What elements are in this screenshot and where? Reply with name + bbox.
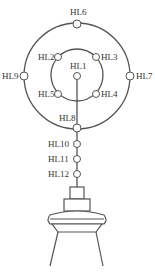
label-hl6: HL6 xyxy=(70,7,87,17)
label-hl3: HL3 xyxy=(101,52,118,62)
node-hl3 xyxy=(93,54,100,61)
node-hl7 xyxy=(126,72,134,80)
label-hl7: HL7 xyxy=(136,71,153,81)
node-hl10 xyxy=(74,141,81,148)
node-hl5 xyxy=(55,91,62,98)
node-hl6 xyxy=(73,20,81,28)
node-hl9 xyxy=(20,72,28,80)
label-hl10: HL10 xyxy=(48,139,69,149)
label-hl2: HL2 xyxy=(38,52,55,62)
node-hl8 xyxy=(73,124,81,132)
node-hl4 xyxy=(93,91,100,98)
node-hl12 xyxy=(74,171,81,178)
lamp-wiring-diagram: HL6 HL1 HL2 HL3 HL5 HL4 HL9 HL7 HL8 HL10… xyxy=(0,0,155,275)
lamp-fixture xyxy=(48,187,106,266)
label-hl8: HL8 xyxy=(59,113,76,123)
diagram-graphics xyxy=(0,0,155,275)
label-hl5: HL5 xyxy=(38,89,55,99)
label-hl11: HL11 xyxy=(48,154,69,164)
node-hl2 xyxy=(55,54,62,61)
label-hl12: HL12 xyxy=(48,169,69,179)
label-hl1: HL1 xyxy=(70,61,87,71)
node-hl11 xyxy=(74,156,81,163)
label-hl9: HL9 xyxy=(2,71,19,81)
label-hl4: HL4 xyxy=(101,89,118,99)
node-hl1 xyxy=(74,73,81,80)
